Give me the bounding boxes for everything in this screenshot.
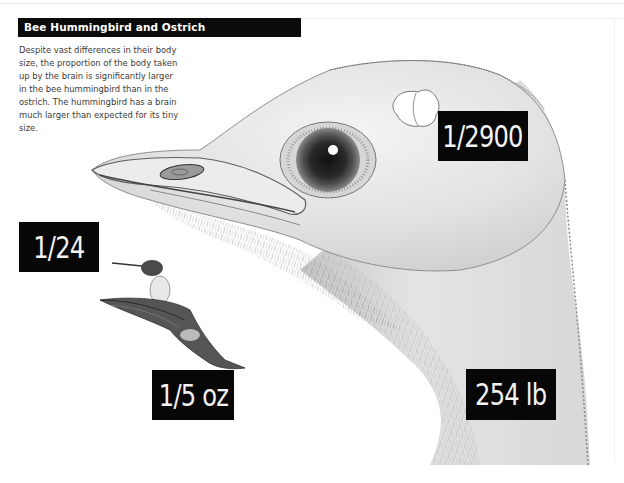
page-title: Bee Hummingbird and Ostrich bbox=[18, 18, 301, 37]
hummingbird-brain-ratio-label: 1/24 bbox=[19, 222, 99, 272]
ostrich-brain-ratio-value: 1/2900 bbox=[443, 121, 523, 152]
caption-text: Despite vast differences in their body s… bbox=[19, 44, 179, 135]
hummingbird-weight-label: 1/5 oz bbox=[152, 370, 234, 420]
bee-hummingbird-illustration bbox=[100, 260, 245, 369]
ostrich-weight-label: 254 lb bbox=[466, 369, 556, 420]
hummingbird-brain-ratio-value: 1/24 bbox=[33, 232, 84, 263]
hummingbird-weight-value: 1/5 oz bbox=[158, 380, 227, 411]
ostrich-weight-value: 254 lb bbox=[475, 379, 546, 410]
infographic-page: Bee Hummingbird and Ostrich Despite vast… bbox=[0, 0, 624, 483]
ostrich-brain-ratio-label: 1/2900 bbox=[438, 111, 528, 161]
